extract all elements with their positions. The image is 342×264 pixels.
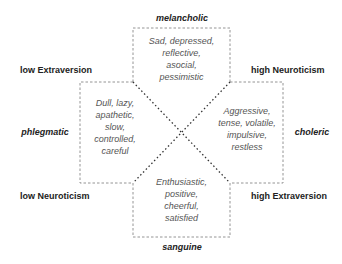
- trait-line: reflective,: [133, 47, 230, 59]
- traits-sanguine: Enthusiastic, positive, cheerful, satisf…: [133, 176, 230, 224]
- axis-label-low-neuroticism: low Neuroticism: [20, 191, 90, 202]
- trait-line: asocial,: [133, 59, 230, 71]
- traits-melancholic: Sad, depressed, reflective, asocial, pes…: [133, 35, 230, 83]
- trait-line: Sad, depressed,: [133, 35, 230, 47]
- trait-line: Aggressive,: [200, 105, 294, 117]
- trait-line: Dull, lazy,: [80, 97, 150, 109]
- trait-line: Enthusiastic,: [133, 176, 230, 188]
- axis-label-high-extraversion: high Extraversion: [251, 191, 327, 202]
- trait-line: tense, volatile,: [200, 117, 294, 129]
- trait-line: apathetic,: [80, 109, 150, 121]
- trait-line: impulsive,: [200, 129, 294, 141]
- temperament-choleric: choleric: [292, 127, 332, 138]
- trait-line: slow,: [80, 121, 150, 133]
- axis-label-high-neuroticism: high Neuroticism: [251, 65, 325, 76]
- traits-phlegmatic: Dull, lazy, apathetic, slow, controlled,…: [80, 97, 150, 157]
- temperament-melancholic: melancholic: [151, 13, 213, 24]
- trait-line: controlled,: [80, 133, 150, 145]
- trait-line: satisfied: [133, 212, 230, 224]
- axis-label-low-extraversion: low Extraversion: [20, 65, 92, 76]
- traits-choleric: Aggressive, tense, volatile, impulsive, …: [200, 105, 294, 153]
- temperament-phlegmatic: phlegmatic: [18, 127, 72, 138]
- trait-line: cheerful,: [133, 200, 230, 212]
- temperament-sanguine: sanguine: [151, 242, 213, 253]
- trait-line: careful: [80, 145, 150, 157]
- trait-line: positive,: [133, 188, 230, 200]
- trait-line: restless: [200, 141, 294, 153]
- trait-line: pessimistic: [133, 71, 230, 83]
